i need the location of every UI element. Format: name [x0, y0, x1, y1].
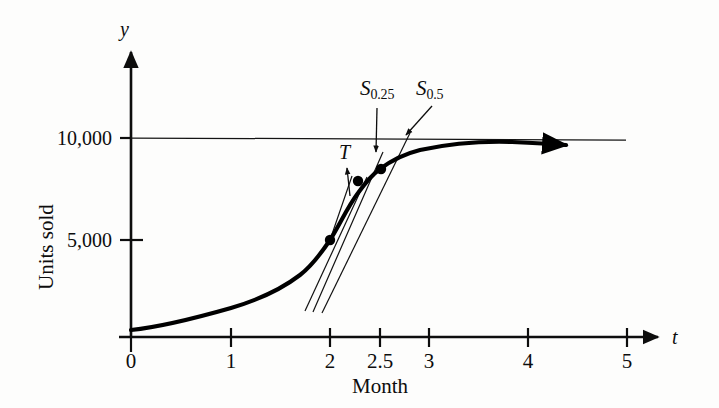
y-axis-title: Units sold — [36, 204, 57, 290]
x-tick-label-4: 4 — [508, 351, 548, 372]
secant-025-label: S0.25 — [360, 78, 394, 99]
sales-curve — [131, 142, 566, 330]
x-axis-variable-label: t — [672, 327, 678, 347]
sales-growth-figure: y t 10,000 5,000 Units sold 0 1 2 2.5 3 … — [0, 0, 719, 408]
y-tick-label-10000: 10,000 — [22, 128, 112, 148]
secant-05-label: S0.5 — [416, 78, 443, 99]
secant-025-label-subscript: 0.25 — [371, 87, 395, 102]
secant-point-t225 — [353, 176, 363, 186]
secant-05-leader-arrow — [406, 106, 432, 135]
base-point-t2 — [325, 235, 335, 245]
asymptote-line-10000 — [131, 138, 626, 140]
x-tick-label-2: 2 — [310, 351, 350, 372]
chart-canvas — [0, 0, 719, 408]
secant-05-label-base: S — [416, 76, 427, 100]
x-tick-label-0: 0 — [111, 351, 151, 372]
x-tick-label-2.5: 2.5 — [356, 351, 404, 372]
secant-05-label-subscript: 0.5 — [427, 87, 444, 102]
x-axis-title: Month — [352, 376, 408, 397]
secant-025-leader-arrow — [376, 108, 377, 152]
x-tick-label-3: 3 — [409, 351, 449, 372]
secant-point-t25 — [376, 164, 386, 174]
x-tick-label-5: 5 — [607, 351, 647, 372]
tangent-line — [305, 177, 367, 311]
secant-025-label-base: S — [360, 76, 371, 100]
y-axis-variable-label: y — [120, 19, 129, 39]
x-tick-label-1: 1 — [211, 351, 251, 372]
tangent-line-label: T — [339, 142, 350, 162]
